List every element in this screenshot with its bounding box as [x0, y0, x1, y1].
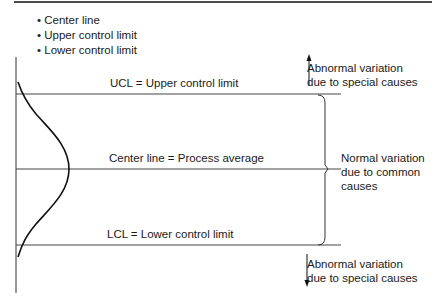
- center-line-label: Center line = Process average: [109, 152, 264, 164]
- bullet-item: • Center line: [37, 13, 137, 28]
- top-annotation: Abnormal variation due to special causes: [307, 61, 418, 89]
- bullet-item: • Upper control limit: [37, 28, 137, 43]
- middle-annotation: Normal variation due to common causes: [341, 151, 425, 193]
- bullet-list: • Center line • Upper control limit • Lo…: [37, 13, 137, 58]
- ucl-label: UCL = Upper control limit: [110, 77, 238, 89]
- bullet-item: • Lower control limit: [37, 43, 137, 58]
- bracket: [318, 95, 328, 245]
- lcl-label: LCL = Lower control limit: [107, 228, 233, 240]
- bottom-annotation: Abnormal variation due to special causes: [307, 257, 418, 285]
